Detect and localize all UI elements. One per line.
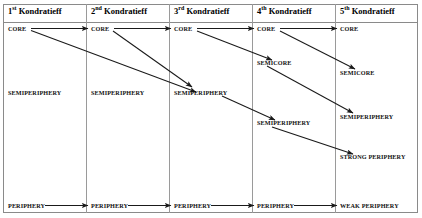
node-k1-core: CORE [8,25,26,33]
column-divider-1 [86,4,87,213]
column-header-k3-suffix: rd [178,5,184,11]
column-header-k4: 4th Kondratieff [257,6,312,17]
node-k1-periphery: PERIPHERY [8,202,45,210]
column-header-k4-suffix: th [261,5,266,11]
column-header-k3-name: Kondratieff [186,6,229,16]
column-header-k2-suffix: nd [95,5,102,11]
header-divider-rule [3,22,418,23]
column-header-k5: 5th Kondratieff [340,6,395,17]
column-header-k2-name: Kondratieff [104,6,147,16]
kondratieff-diagram: 1st Kondratieff 2nd Kondratieff 3rd Kond… [0,0,422,218]
column-header-k1-name: Kondratieff [19,6,62,16]
column-header-k1: 1st Kondratieff [8,6,62,17]
node-k3-core: CORE [174,25,192,33]
node-k5-core: CORE [340,25,358,33]
column-header-k3: 3rd Kondratieff [174,6,229,17]
node-k4-core: CORE [257,25,275,33]
node-k5-semicore: SEMICORE [340,69,375,77]
node-k1-semiperiphery: SEMIPERIPHERY [8,89,61,97]
column-divider-2 [169,4,170,213]
column-header-k4-name: Kondratieff [269,6,312,16]
node-k4-semiperiphery: SEMIPERIPHERY [257,119,310,127]
column-divider-4 [335,4,336,213]
column-header-k1-suffix: st [12,5,16,11]
node-k3-periphery: PERIPHERY [174,202,211,210]
column-divider-3 [252,4,253,213]
node-k5-semiperiphery: SEMIPERIPHERY [340,113,393,121]
node-k5-strong-periphery: STRONG PERIPHERY [340,153,406,161]
node-k5-weak-periphery: WEAK PERIPHERY [340,202,399,210]
diagram-frame [3,4,418,213]
node-k4-semicore: SEMICORE [257,59,292,67]
column-header-k5-suffix: th [344,5,349,11]
node-k2-periphery: PERIPHERY [91,202,128,210]
column-header-k5-name: Kondratieff [352,6,395,16]
node-k2-semiperiphery: SEMIPERIPHERY [91,89,144,97]
node-k3-semiperiphery: SEMIPERIPHERY [174,89,227,97]
column-header-k2: 2nd Kondratieff [91,6,147,17]
node-k4-periphery: PERIPHERY [257,202,294,210]
node-k2-core: CORE [91,25,109,33]
